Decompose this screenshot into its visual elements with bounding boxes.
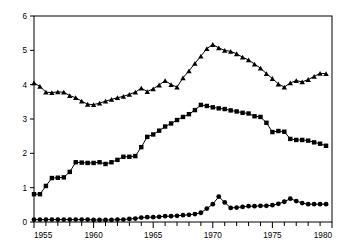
y-tick-label: 1 (22, 184, 27, 193)
data-point-square (163, 124, 167, 128)
y-tick-label: 2 (22, 149, 27, 158)
data-point-circle (109, 218, 114, 223)
data-point-square (127, 155, 131, 159)
data-point-circle (240, 204, 245, 209)
data-point-square (211, 105, 215, 109)
data-point-square (193, 108, 197, 112)
data-point-circle (252, 204, 257, 209)
data-point-circle (234, 205, 239, 210)
data-point-square (38, 192, 42, 196)
y-tick-label: 0 (22, 218, 27, 227)
data-point-square (294, 138, 298, 142)
data-point-circle (139, 215, 144, 220)
data-point-circle (210, 202, 215, 207)
data-point-square (270, 130, 274, 134)
data-point-square (109, 160, 113, 164)
x-tick-label: 1965 (144, 231, 163, 240)
data-point-circle (73, 217, 78, 222)
data-point-square (44, 184, 48, 188)
data-point-square (217, 106, 221, 110)
data-point-square (151, 132, 155, 136)
data-point-circle (282, 199, 287, 204)
x-tick-label: 1980 (314, 231, 333, 240)
data-point-circle (121, 217, 126, 222)
data-point-circle (276, 201, 281, 206)
data-point-circle (127, 217, 132, 222)
data-point-square (258, 115, 262, 119)
data-point-circle (163, 214, 168, 219)
data-point-circle (145, 215, 150, 220)
data-point-square (121, 155, 125, 159)
data-point-circle (55, 217, 60, 222)
data-point-square (50, 176, 54, 180)
data-point-square (199, 103, 203, 107)
data-point-circle (204, 206, 209, 211)
data-point-circle (246, 204, 251, 209)
data-point-circle (175, 213, 180, 218)
data-point-circle (228, 206, 233, 211)
data-point-circle (49, 217, 54, 222)
data-point-circle (97, 218, 102, 223)
data-point-square (169, 121, 173, 125)
data-point-square (234, 109, 238, 113)
data-point-circle (264, 203, 269, 208)
x-tick-label: 1955 (34, 231, 53, 240)
data-point-circle (288, 196, 293, 201)
data-point-circle (32, 217, 37, 222)
data-point-square (32, 192, 36, 196)
data-point-square (252, 114, 256, 118)
data-point-square (223, 107, 227, 111)
data-point-square (288, 137, 292, 141)
x-axis: 195519601965197019751980 (34, 222, 332, 240)
data-point-square (62, 175, 66, 179)
data-point-circle (151, 215, 156, 220)
data-point-square (139, 145, 143, 149)
data-point-square (300, 138, 304, 142)
data-point-square (115, 158, 119, 162)
data-point-circle (318, 202, 323, 207)
data-point-circle (38, 217, 43, 222)
data-point-square (276, 129, 280, 133)
data-point-square (312, 140, 316, 144)
y-tick-label: 3 (22, 115, 27, 124)
data-point-circle (103, 218, 108, 223)
x-tick-label: 1960 (84, 231, 103, 240)
data-point-circle (115, 217, 120, 222)
data-point-square (282, 130, 286, 134)
data-point-circle (181, 213, 186, 218)
chart-plot: 0123456 195519601965197019751980 (0, 0, 359, 245)
data-point-circle (133, 216, 138, 221)
data-point-square (157, 128, 161, 132)
data-point-square (240, 111, 244, 115)
x-tick-label: 1970 (204, 231, 223, 240)
data-point-circle (193, 212, 198, 217)
data-point-square (91, 161, 95, 165)
data-point-circle (222, 200, 227, 205)
data-point-circle (300, 201, 305, 206)
data-point-square (205, 104, 209, 108)
data-point-circle (85, 217, 90, 222)
data-point-circle (61, 217, 66, 222)
y-tick-label: 4 (22, 81, 27, 90)
data-point-square (181, 115, 185, 119)
data-point-circle (216, 194, 221, 199)
data-point-circle (169, 214, 174, 219)
data-point-circle (258, 203, 263, 208)
data-point-square (187, 112, 191, 116)
data-point-circle (324, 202, 329, 207)
x-tick-label: 1975 (263, 231, 282, 240)
data-point-square (133, 154, 137, 158)
data-point-circle (67, 217, 72, 222)
data-point-square (56, 176, 60, 180)
data-point-square (97, 160, 101, 164)
data-point-square (318, 142, 322, 146)
data-point-square (228, 108, 232, 112)
data-point-circle (187, 212, 192, 217)
data-point-square (74, 160, 78, 164)
data-point-square (103, 162, 107, 166)
data-point-circle (294, 199, 299, 204)
data-point-square (68, 170, 72, 174)
data-point-square (85, 161, 89, 165)
data-point-square (246, 111, 250, 115)
chart-container: 0123456 195519601965197019751980 (0, 0, 359, 245)
